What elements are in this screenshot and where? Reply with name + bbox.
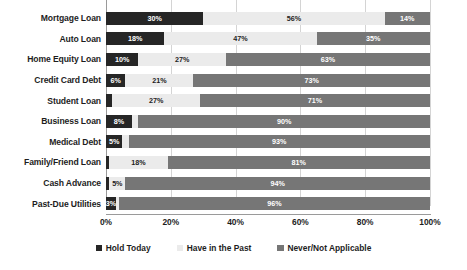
chart-row: Mortgage Loan30%56%14% <box>0 8 467 29</box>
bar-segment: 5% <box>109 177 125 190</box>
stacked-bar: 18%47%35% <box>106 32 430 45</box>
bar-segment-label: 56% <box>287 14 301 23</box>
legend-item[interactable]: Have in the Past <box>177 243 252 253</box>
stacked-bar: 8%90% <box>106 115 430 128</box>
bar-segment-label: 3% <box>106 199 116 208</box>
bar-segment: 6% <box>106 74 125 87</box>
bar-segment: 56% <box>203 12 384 25</box>
chart-row: Past-Due Utilities3%96% <box>0 193 467 214</box>
legend-label: Never/Not Applicable <box>287 243 371 253</box>
bar-segment: 35% <box>317 32 430 45</box>
bar-segment: 47% <box>164 32 316 45</box>
bar-segment-label: 73% <box>305 76 319 85</box>
bar-segment-label: 30% <box>147 14 161 23</box>
bar-segment-label: 47% <box>233 34 247 43</box>
stacked-bar: 27%71% <box>106 94 430 107</box>
x-tick-label: 20% <box>162 217 179 227</box>
stacked-bar: 10%27%63% <box>106 53 430 66</box>
bar-segment-label: 21% <box>152 76 166 85</box>
legend-label: Have in the Past <box>187 243 252 253</box>
stacked-bar: 5%94% <box>106 177 430 190</box>
bar-segment-label: 93% <box>272 137 286 146</box>
x-tick-label: 0% <box>100 217 112 227</box>
stacked-bar: 6%21%73% <box>106 74 430 87</box>
bar-segment: 8% <box>106 115 132 128</box>
bar-segment: 27% <box>138 53 225 66</box>
bar-segment: 81% <box>168 156 430 169</box>
chart-row: Home Equity Loan10%27%63% <box>0 49 467 70</box>
bar-segment-label: 63% <box>321 55 335 64</box>
bar-segment: 96% <box>119 197 430 210</box>
bar-segment-label: 94% <box>271 179 285 188</box>
bar-segment-label: 8% <box>114 117 124 126</box>
bar-segment-label: 6% <box>111 76 121 85</box>
x-axis-tick-labels: 0%20%40%60%80%100% <box>0 217 467 231</box>
bar-segment: 30% <box>106 12 203 25</box>
legend-swatch-icon <box>96 245 103 252</box>
bar-segment-label: 5% <box>112 179 122 188</box>
legend-item[interactable]: Hold Today <box>96 243 151 253</box>
bar-segment: 10% <box>106 53 138 66</box>
category-label: Medical Debt <box>0 137 106 147</box>
bar-segment-label: 18% <box>128 34 142 43</box>
bar-segment-label: 27% <box>149 96 163 105</box>
legend-swatch-icon <box>277 245 284 252</box>
x-axis-line <box>106 214 431 215</box>
x-tick-label: 80% <box>357 217 374 227</box>
bar-segment: 18% <box>109 156 167 169</box>
category-label: Business Loan <box>0 116 106 126</box>
stacked-bar: 30%56%14% <box>106 12 430 25</box>
bar-segment: 94% <box>125 177 430 190</box>
category-label: Cash Advance <box>0 178 106 188</box>
chart-row: Cash Advance5%94% <box>0 173 467 194</box>
bar-segment: 90% <box>138 115 430 128</box>
x-tick-label: 100% <box>419 217 440 227</box>
x-tick-label: 60% <box>292 217 309 227</box>
chart-row: Auto Loan18%47%35% <box>0 29 467 50</box>
bar-segment-label: 27% <box>175 55 189 64</box>
bar-segment-label: 96% <box>267 199 281 208</box>
bar-segment-label: 71% <box>308 96 322 105</box>
bar-segment: 3% <box>106 197 116 210</box>
bar-segment-label: 5% <box>109 137 119 146</box>
stacked-bar: 5%93% <box>106 135 430 148</box>
stacked-bar: 18%81% <box>106 156 430 169</box>
bar-segment: 73% <box>193 74 430 87</box>
bar-segment: 93% <box>129 135 430 148</box>
category-label: Past-Due Utilities <box>0 199 106 209</box>
category-label: Mortgage Loan <box>0 13 106 23</box>
legend-item[interactable]: Never/Not Applicable <box>277 243 371 253</box>
bar-segment: 71% <box>200 94 430 107</box>
chart-plot-area: Mortgage Loan30%56%14%Auto Loan18%47%35%… <box>0 8 467 216</box>
category-label: Auto Loan <box>0 34 106 44</box>
legend-swatch-icon <box>177 245 184 252</box>
bar-segment: 14% <box>385 12 430 25</box>
bar-segment-label: 14% <box>400 14 414 23</box>
x-tick-label: 40% <box>227 217 244 227</box>
chart-row: Family/Friend Loan18%81% <box>0 152 467 173</box>
chart-row: Business Loan8%90% <box>0 111 467 132</box>
bar-segment: 18% <box>106 32 164 45</box>
legend-label: Hold Today <box>106 243 151 253</box>
chart-legend: Hold TodayHave in the PastNever/Not Appl… <box>0 243 467 253</box>
bar-segment-label: 90% <box>277 117 291 126</box>
bar-segment: 5% <box>106 135 122 148</box>
stacked-bar: 3%96% <box>106 197 430 210</box>
chart-row: Student Loan27%71% <box>0 90 467 111</box>
chart-row: Medical Debt5%93% <box>0 132 467 153</box>
bar-segment: 21% <box>125 74 193 87</box>
bar-segment-label: 18% <box>131 158 145 167</box>
bar-segment: 27% <box>112 94 199 107</box>
category-label: Student Loan <box>0 96 106 106</box>
bar-segment-label: 35% <box>366 34 380 43</box>
stacked-bar-chart: Mortgage Loan30%56%14%Auto Loan18%47%35%… <box>0 0 467 270</box>
bar-segment-label: 10% <box>115 55 129 64</box>
bar-segment-label: 81% <box>292 158 306 167</box>
category-label: Family/Friend Loan <box>0 157 106 167</box>
bar-segment: 63% <box>226 53 430 66</box>
category-label: Credit Card Debt <box>0 75 106 85</box>
category-label: Home Equity Loan <box>0 54 106 64</box>
chart-row: Credit Card Debt6%21%73% <box>0 70 467 91</box>
